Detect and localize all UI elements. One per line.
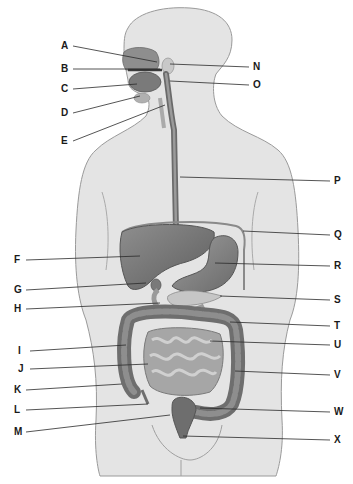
label-g: G <box>14 285 22 295</box>
label-q: Q <box>334 230 342 240</box>
label-k: K <box>14 385 21 395</box>
label-t: T <box>334 321 340 331</box>
digestive-system-diagram <box>0 0 353 484</box>
label-s: S <box>334 295 341 305</box>
label-e: E <box>61 136 68 146</box>
label-d: D <box>61 108 68 118</box>
label-c: C <box>61 84 68 94</box>
label-j: J <box>18 364 24 374</box>
label-r: R <box>334 261 341 271</box>
label-i: I <box>18 346 21 356</box>
label-x: X <box>334 435 341 445</box>
leader-line-c <box>73 84 137 89</box>
label-n: N <box>253 62 260 72</box>
label-b: B <box>61 64 68 74</box>
leader-line-d <box>73 96 140 113</box>
tongue <box>129 72 161 92</box>
label-f: F <box>14 255 20 265</box>
label-u: U <box>334 340 341 350</box>
submandibular-gland <box>134 93 150 103</box>
label-a: A <box>61 41 68 51</box>
label-p: P <box>334 176 341 186</box>
salivary-gland <box>162 58 174 74</box>
label-h: H <box>14 304 21 314</box>
label-l: L <box>14 405 20 415</box>
label-m: M <box>14 427 22 437</box>
label-o: O <box>253 80 261 90</box>
label-v: V <box>334 370 341 380</box>
label-w: W <box>334 407 343 417</box>
